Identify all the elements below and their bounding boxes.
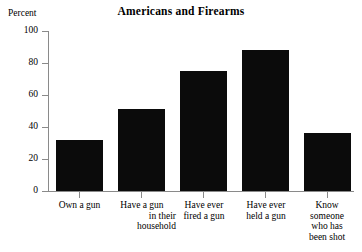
x-tick-mark [79,192,80,198]
chart-title: Americans and Firearms [0,5,362,17]
x-tick-mark [327,192,328,198]
x-category-label-know-someone-shot: Know someone who has been shot [294,200,360,242]
label-line: who has [294,221,360,232]
y-tick-label: 100 [0,26,38,36]
bar-have-ever-held-a-gun [242,50,289,191]
y-axis-line [48,31,49,192]
label-line: Have ever [232,200,300,211]
x-tick-mark [203,192,204,198]
y-tick-label: 80 [0,58,38,68]
y-tick-mark [42,191,48,192]
label-line: someone [294,211,360,222]
label-line: Have a gun [108,200,176,211]
bar-chart: Americans and Firearms Percent 100 80 60… [0,0,362,252]
y-tick-label: 40 [0,122,38,132]
bar-own-a-gun [56,140,103,191]
x-category-label-have-ever-held-a-gun: Have ever held a gun [232,200,300,221]
y-tick-mark [42,31,48,32]
label-line: household [108,221,176,232]
y-tick-mark [42,127,48,128]
y-tick-mark [42,63,48,64]
y-tick-label: 0 [0,186,38,196]
label-line: in their [108,211,176,222]
label-line: Know [294,200,360,211]
label-line: been shot [294,232,360,243]
label-line: held a gun [232,211,300,222]
y-tick-label: 60 [0,90,38,100]
bar-have-a-gun-in-household [118,109,165,191]
bar-know-someone-shot [304,133,351,191]
x-tick-mark [265,192,266,198]
label-line: fired a gun [170,211,238,222]
y-tick-label: 20 [0,154,38,164]
y-tick-mark [42,95,48,96]
bar-have-ever-fired-a-gun [180,71,227,191]
y-axis-label: Percent [8,8,37,18]
x-category-label-have-a-gun-in-household: Have a gun in their household [108,200,176,232]
x-category-label-have-ever-fired-a-gun: Have ever fired a gun [170,200,238,221]
y-tick-mark [42,159,48,160]
x-axis-line [48,191,354,192]
x-tick-mark [141,192,142,198]
label-line: Have ever [170,200,238,211]
x-category-label-own-a-gun: Own a gun [42,200,117,211]
label-line: Own a gun [42,200,117,211]
